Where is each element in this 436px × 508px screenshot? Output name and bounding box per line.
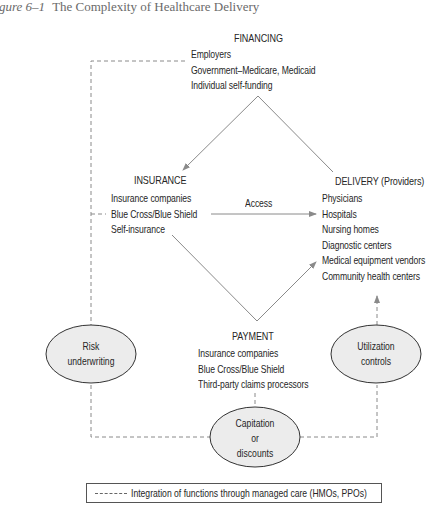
delivery-items: Physicians Hospitals Nursing homes Diagn… xyxy=(322,191,425,284)
legend-text: Integration of functions through managed… xyxy=(131,486,367,501)
financing-to-delivery-line xyxy=(258,96,333,172)
delivery-item: Physicians xyxy=(322,191,425,207)
capitation-label: Capitation or discounts xyxy=(222,416,288,461)
financing-item: Employers xyxy=(191,47,315,63)
payment-to-delivery-arrow xyxy=(257,262,316,321)
insurance-item: Self-insurance xyxy=(111,222,197,238)
delivery-item: Nursing homes xyxy=(322,222,425,238)
delivery-item: Community health centers xyxy=(322,269,425,285)
access-label: Access xyxy=(245,196,272,212)
financing-item: Individual self-funding xyxy=(191,78,315,94)
payment-items: Insurance companies Blue Cross/Blue Shie… xyxy=(198,346,309,393)
delivery-heading: DELIVERY (Providers) xyxy=(335,174,424,190)
ellipse-line: controls xyxy=(343,354,409,369)
payment-heading: PAYMENT xyxy=(232,329,274,345)
financing-items: Employers Government–Medicare, Medicaid … xyxy=(191,47,315,94)
financing-heading: FINANCING xyxy=(234,31,283,47)
ellipse-line: Capitation xyxy=(222,416,288,431)
insurance-item: Insurance companies xyxy=(111,191,197,207)
delivery-item: Diagnostic centers xyxy=(322,238,425,254)
insurance-item: Blue Cross/Blue Shield xyxy=(111,207,197,223)
insurance-heading: INSURANCE xyxy=(134,173,186,189)
financing-to-insurance-arrow xyxy=(183,96,258,170)
legend-dashed-line-icon xyxy=(95,493,127,494)
financing-item: Government–Medicare, Medicaid xyxy=(191,63,315,79)
insurance-to-payment-line xyxy=(172,235,257,321)
ellipse-line: Utilization xyxy=(343,339,409,354)
insurance-items: Insurance companies Blue Cross/Blue Shie… xyxy=(111,191,197,238)
ellipse-line: Risk xyxy=(58,339,124,354)
ellipse-line: discounts xyxy=(222,446,288,461)
payment-item: Third-party claims processors xyxy=(198,377,309,393)
legend-box: Integration of functions through managed… xyxy=(86,483,382,503)
dashed-capitation-to-utilization xyxy=(300,385,377,437)
delivery-item: Hospitals xyxy=(322,207,425,223)
ellipse-line: underwriting xyxy=(58,354,124,369)
utilization-controls-label: Utilization controls xyxy=(343,339,409,369)
delivery-item: Medical equipment vendors xyxy=(322,253,425,269)
ellipse-line: or xyxy=(222,431,288,446)
dashed-risk-to-capitation xyxy=(91,385,210,437)
risk-underwriting-label: Risk underwriting xyxy=(58,339,124,369)
payment-item: Blue Cross/Blue Shield xyxy=(198,362,309,378)
payment-item: Insurance companies xyxy=(198,346,309,362)
